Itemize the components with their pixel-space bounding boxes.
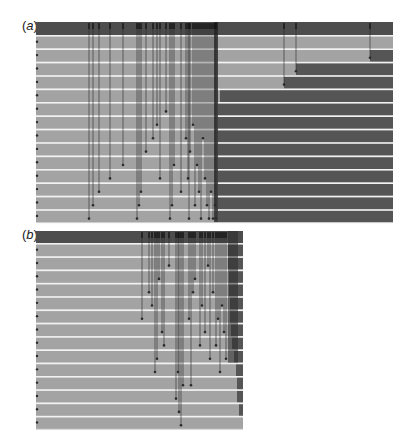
arrow-head-icon — [152, 137, 155, 140]
row-tick — [36, 342, 38, 344]
row-tick — [36, 275, 38, 277]
arrow-head-icon — [219, 371, 222, 374]
row-tick — [36, 54, 38, 56]
arrow-head-icon — [182, 384, 185, 387]
arrow-head-icon — [225, 357, 228, 360]
arrow-head-icon — [156, 357, 159, 360]
row-separator — [36, 416, 243, 418]
row-tick — [36, 408, 38, 410]
row-tick — [36, 328, 38, 330]
arrow-head-icon — [212, 291, 215, 294]
arrow-head-icon — [200, 217, 203, 220]
row-separator — [36, 336, 243, 338]
row-tick — [36, 288, 38, 290]
row-light-segment — [36, 336, 232, 349]
row-light-segment — [36, 169, 218, 182]
row-light-segment — [36, 376, 237, 389]
arrow-head-icon — [295, 70, 298, 73]
arrow-head-icon — [173, 164, 176, 167]
arrow-head-icon — [215, 344, 218, 347]
row-dark-segment — [218, 142, 393, 155]
arrow-head-icon — [194, 278, 197, 281]
row-light-segment — [36, 243, 228, 256]
row-light-segment — [36, 403, 239, 416]
arrow-head-icon — [202, 137, 205, 140]
row-light-segment — [36, 349, 234, 362]
row-tick — [36, 302, 38, 304]
arrow-head-icon — [169, 217, 172, 220]
row-dark-segment — [284, 75, 393, 88]
row-tick — [36, 188, 38, 190]
panel-bottom-edge — [36, 429, 243, 430]
row-tick — [36, 148, 38, 150]
arrow-head-icon — [207, 264, 210, 267]
row-tick — [36, 262, 38, 264]
row-light-segment — [36, 182, 218, 195]
arrow-head-icon — [148, 291, 151, 294]
arrow-head-icon — [212, 217, 215, 220]
row-light-segment — [36, 142, 218, 155]
row-tick — [36, 395, 38, 397]
arrow-head-icon — [188, 217, 191, 220]
row-dark-segment — [239, 403, 243, 416]
arrow-head-icon — [217, 318, 220, 321]
row-separator — [36, 256, 243, 258]
row-separator — [36, 310, 243, 312]
arrow-head-icon — [163, 344, 166, 347]
row-separator — [36, 270, 243, 272]
arrow-head-icon — [141, 318, 144, 321]
row-tick — [36, 175, 38, 177]
row-tick — [36, 355, 38, 357]
row-light-segment — [36, 89, 220, 102]
row-separator — [36, 389, 243, 391]
arrow-head-icon — [92, 204, 95, 207]
row-light-segment — [36, 363, 236, 376]
arrow-head-icon — [199, 344, 202, 347]
arrow-head-icon — [178, 411, 181, 414]
arrow-head-icon — [159, 177, 162, 180]
panel-a — [36, 22, 393, 223]
arrow-head-icon — [190, 384, 193, 387]
row-dark-segment — [218, 156, 393, 169]
arrow-head-icon — [158, 278, 161, 281]
row-separator — [36, 283, 243, 285]
row-tick — [36, 67, 38, 69]
row-light-segment — [36, 209, 218, 222]
row-light-segment — [36, 416, 243, 429]
arrow-head-icon — [210, 190, 213, 193]
arrow-head-icon — [196, 164, 199, 167]
arrow-head-icon — [223, 331, 226, 334]
row-separator — [36, 376, 243, 378]
row-tick — [36, 315, 38, 317]
arrow-head-icon — [192, 291, 195, 294]
row-separator — [36, 323, 243, 325]
row-dark-segment — [370, 48, 393, 61]
row-dark-segment — [218, 209, 393, 222]
row-light-segment — [36, 389, 237, 402]
row-light-segment — [36, 323, 231, 336]
arrow-head-icon — [208, 217, 211, 220]
row-light-segment — [36, 196, 218, 209]
row-dark-segment — [218, 169, 393, 182]
arrow-head-icon — [165, 110, 168, 113]
row-tick — [36, 134, 38, 136]
panel-header-band — [36, 231, 243, 243]
row-tick — [36, 368, 38, 370]
arrow-head-icon — [168, 264, 171, 267]
row-tick — [36, 94, 38, 96]
arrow-head-icon — [140, 190, 143, 193]
arrow-head-icon — [185, 137, 188, 140]
arrow-head-icon — [138, 204, 141, 207]
arrow-head-icon — [122, 164, 125, 167]
row-separator — [36, 403, 243, 405]
row-separator — [36, 243, 243, 245]
row-light-segment — [36, 310, 230, 323]
row-dark-segment — [218, 182, 393, 195]
row-dark-segment — [237, 389, 243, 402]
row-dark-segment — [220, 89, 393, 102]
row-light-segment — [36, 115, 218, 128]
row-tick — [36, 421, 38, 423]
row-tick — [36, 108, 38, 110]
arrow-head-icon — [180, 190, 183, 193]
arrow-head-icon — [198, 190, 201, 193]
